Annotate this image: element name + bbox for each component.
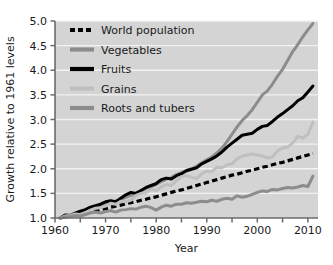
y-tick-label: 3.5: [30, 89, 48, 102]
y-axis-tick-labels: 1.01.52.02.53.03.54.04.55.0: [30, 15, 48, 225]
x-axis-tick-labels: 196019701980199020002010: [41, 224, 322, 237]
x-tick-label: 2010: [294, 224, 322, 237]
legend-label: World population: [101, 24, 195, 37]
y-tick-label: 2.0: [30, 163, 48, 176]
y-tick-label: 1.0: [30, 212, 48, 225]
x-tick-label: 1960: [41, 224, 69, 237]
y-tick-label: 1.5: [30, 187, 48, 200]
x-tick-label: 1990: [193, 224, 221, 237]
chart-figure: 196019701980199020002010 1.01.52.02.53.0…: [0, 0, 333, 265]
y-tick-label: 5.0: [30, 15, 48, 28]
x-tick-label: 1970: [92, 224, 120, 237]
legend-label: Grains: [101, 83, 137, 96]
y-tick-label: 3.0: [30, 114, 48, 127]
legend-label: Fruits: [101, 63, 131, 76]
x-tick-label: 1980: [142, 224, 170, 237]
line-chart: 196019701980199020002010 1.01.52.02.53.0…: [0, 0, 333, 265]
x-axis-title: Year: [174, 242, 199, 255]
y-tick-label: 4.0: [30, 64, 48, 77]
legend-label: Vegetables: [101, 44, 162, 57]
y-tick-label: 4.5: [30, 40, 48, 53]
x-tick-label: 2000: [243, 224, 271, 237]
legend-label: Roots and tubers: [101, 102, 195, 115]
y-axis-title: Growth relative to 1961 levels: [4, 36, 17, 202]
y-tick-label: 2.5: [30, 138, 48, 151]
